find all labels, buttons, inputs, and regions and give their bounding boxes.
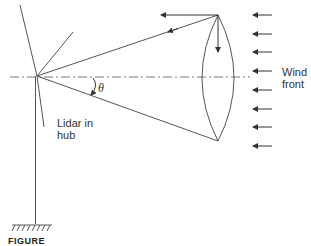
lidar-label-line2: hub	[57, 129, 93, 141]
wind-label-line2: front	[282, 78, 307, 90]
cone-upper	[37, 15, 218, 76]
lidar-label-line1: Lidar in	[57, 117, 93, 129]
theta-label: θ	[98, 82, 104, 94]
wind-front-label: Wind front	[282, 66, 307, 90]
lidar-label: Lidar in hub	[57, 117, 93, 141]
figure-caption: FIGURE	[8, 236, 45, 246]
ground-hatch	[12, 225, 52, 231]
rotor-blades	[20, 5, 73, 127]
beam-arrow	[168, 29, 178, 33]
theta-arc	[91, 78, 96, 95]
wind-arrows	[253, 15, 272, 146]
wind-label-line1: Wind	[282, 66, 307, 78]
